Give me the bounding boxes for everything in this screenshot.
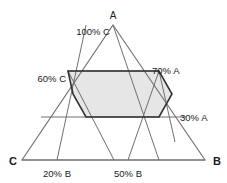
tick-label-20-b: 20% B xyxy=(43,168,71,179)
tick-label-50-b: 50% B xyxy=(114,168,142,179)
tick-label-100-c: 100% C xyxy=(76,26,110,37)
vertex-label-c: C xyxy=(9,155,17,167)
tick-label-70-a: 70% A xyxy=(152,65,180,76)
vertex-label-b: B xyxy=(213,155,221,167)
tick-label-30-a: 30% A xyxy=(180,112,208,123)
vertex-label-a: A xyxy=(110,10,117,21)
tick-label-60-c: 60% C xyxy=(37,73,66,84)
ternary-plot-svg: A B C 100% C 60% C 70% A 30% A 20% B 50%… xyxy=(0,0,227,183)
ternary-diagram: A B C 100% C 60% C 70% A 30% A 20% B 50%… xyxy=(0,0,227,183)
